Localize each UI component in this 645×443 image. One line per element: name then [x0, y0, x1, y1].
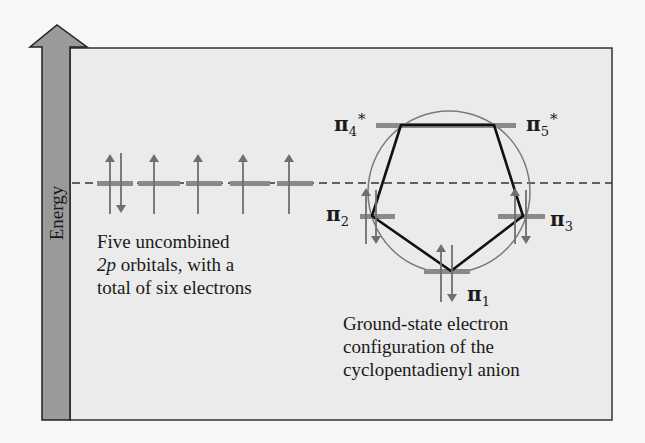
pi-subscript: 5	[541, 124, 549, 139]
pi-symbol: π	[550, 207, 565, 231]
pi-symbol: π	[526, 112, 541, 136]
caption-text: orbitals, with a	[116, 254, 234, 275]
pi3-label: π3	[550, 207, 573, 234]
pi-superscript: *	[550, 110, 558, 128]
pi-symbol: π	[467, 282, 482, 306]
frost-circle-diagram: Energy π4* π5* π2 π3 π1 Five uncombined …	[0, 0, 645, 443]
pi-subscript: 4	[349, 124, 357, 139]
energy-axis-label: Energy	[46, 186, 68, 241]
right-caption-line-3: cyclopentadienyl anion	[343, 359, 520, 381]
right-caption-line-1: Ground-state electron	[343, 313, 508, 335]
left-caption-line-2: 2p orbitals, with a	[97, 254, 234, 276]
pi-symbol: π	[326, 202, 341, 226]
left-caption-line-1: Five uncombined	[97, 231, 229, 253]
pi-subscript: 1	[482, 294, 490, 309]
right-caption-line-2: configuration of the	[343, 336, 494, 358]
2p-italic: 2p	[97, 254, 116, 275]
left-caption-line-3: total of six electrons	[97, 277, 252, 299]
pi-subscript: 3	[565, 219, 573, 234]
pi4-star-label: π4*	[334, 110, 365, 139]
pi-superscript: *	[358, 110, 366, 128]
pi5-star-label: π5*	[526, 110, 557, 139]
pi-subscript: 2	[341, 214, 349, 229]
pi1-label: π1	[467, 282, 490, 309]
pi2-label: π2	[326, 202, 349, 229]
pi-symbol: π	[334, 112, 349, 136]
